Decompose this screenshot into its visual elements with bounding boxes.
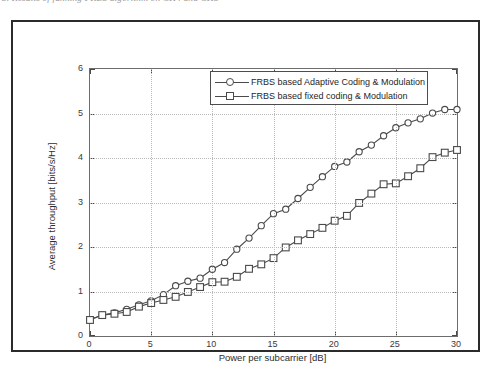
circle-marker <box>417 116 423 122</box>
gridline-horizontal <box>90 203 457 204</box>
square-marker <box>233 273 240 280</box>
circle-marker <box>405 120 411 126</box>
x-axis-tick-label: 5 <box>148 339 153 349</box>
square-marker <box>111 310 118 317</box>
plot-axes <box>89 68 458 337</box>
circle-marker <box>283 206 289 212</box>
y-axis-tick-label: 3 <box>69 197 83 207</box>
square-marker <box>87 317 94 324</box>
circle-marker <box>344 159 350 165</box>
legend-item: FRBS based Adaptive Coding & Modulation <box>215 75 423 89</box>
circle-marker <box>307 184 313 190</box>
circle-marker <box>185 278 191 284</box>
gridline-horizontal <box>90 247 457 248</box>
square-marker <box>417 165 424 172</box>
legend-swatch-circle <box>215 76 249 88</box>
square-marker <box>246 265 253 272</box>
circle-marker <box>368 142 374 148</box>
y-axis-tick-label: 4 <box>69 152 83 162</box>
x-axis-tick-label: 25 <box>390 339 400 349</box>
square-marker <box>172 293 179 300</box>
square-marker <box>258 261 265 268</box>
square-marker-icon <box>226 92 234 100</box>
y-axis-tick <box>452 69 457 70</box>
x-axis-label: Power per subcarrier [dB] <box>89 352 456 363</box>
circle-marker-icon <box>226 78 234 86</box>
figure-caption-text: 3. Results of funning FRBS algorithm on … <box>2 0 219 3</box>
y-axis-label: Average throughput [bits/s/Hz] <box>46 107 57 307</box>
y-axis-tick <box>90 69 95 70</box>
square-marker <box>197 284 204 291</box>
square-marker <box>368 190 375 197</box>
y-axis-tick <box>90 335 95 336</box>
circle-marker <box>258 223 264 229</box>
square-marker <box>295 237 302 244</box>
square-marker <box>307 231 314 238</box>
square-marker <box>136 303 143 310</box>
figure-caption-strip: 3. Results of funning FRBS algorithm on … <box>0 0 495 12</box>
y-axis-tick-label: 5 <box>69 108 83 118</box>
circle-marker <box>173 283 179 289</box>
square-marker <box>319 224 326 231</box>
square-marker <box>99 312 106 319</box>
figure-frame: 051015202530 0123456 Power per subcarrie… <box>11 20 480 352</box>
square-marker <box>160 297 167 304</box>
circle-marker <box>356 149 362 155</box>
circle-marker <box>295 195 301 201</box>
gridline-horizontal <box>90 292 457 293</box>
square-marker <box>344 212 351 219</box>
circle-marker <box>197 275 203 281</box>
square-marker <box>123 309 130 316</box>
circle-marker <box>442 106 448 112</box>
legend-swatch-square <box>215 90 249 102</box>
x-axis-tick-label: 20 <box>329 339 339 349</box>
x-axis-tick-label: 15 <box>267 339 277 349</box>
legend-item-label: FRBS based fixed coding & Modulation <box>249 91 408 101</box>
circle-marker <box>319 174 325 180</box>
legend-item-label: FRBS based Adaptive Coding & Modulation <box>249 77 425 87</box>
x-axis-tick-label: 0 <box>86 339 91 349</box>
y-axis-tick <box>452 335 457 336</box>
y-axis-tick-label: 2 <box>69 241 83 251</box>
square-marker <box>441 149 448 156</box>
y-axis-tick-label: 1 <box>69 286 83 296</box>
y-axis-tick-label: 6 <box>69 63 83 73</box>
square-marker <box>221 278 228 285</box>
legend-item: FRBS based fixed coding & Modulation <box>215 89 423 103</box>
square-marker <box>405 173 412 180</box>
square-marker <box>380 181 387 188</box>
y-axis-tick-label: 0 <box>69 330 83 340</box>
circle-marker <box>221 259 227 265</box>
square-marker <box>454 147 461 154</box>
x-axis-tick-label: 10 <box>206 339 216 349</box>
circle-marker <box>246 235 252 241</box>
x-axis-tick-label: 30 <box>451 339 461 349</box>
circle-marker <box>454 106 460 112</box>
gridline-horizontal <box>90 114 457 115</box>
circle-marker <box>381 133 387 139</box>
gridline-horizontal <box>90 158 457 159</box>
chart-legend: FRBS based Adaptive Coding & Modulation … <box>210 71 428 105</box>
